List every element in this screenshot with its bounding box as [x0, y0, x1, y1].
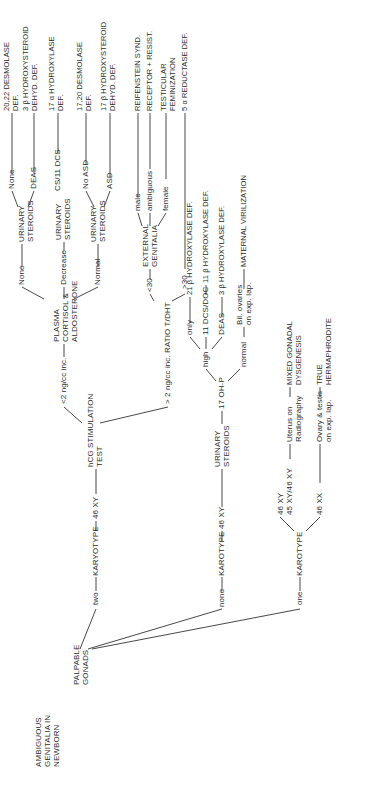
- node-uterus-on-radiography: Uterus on Radiography: [285, 396, 303, 442]
- result-17b-hydroxysteroid-dehyd-def: 17 β HYDROXYSTEROID DEHYD. DEF.: [100, 22, 117, 111]
- label-deas-2: DEAS: [217, 313, 226, 335]
- node-external-genitalia: EXTERNAL GENITALIA: [141, 224, 159, 267]
- label-male: male: [133, 193, 142, 211]
- node-urinary-steroids-2: URINARY STEROIDS: [54, 198, 72, 240]
- result-5a-reductase-def: 5 α REDUCTASE DEF.: [181, 32, 190, 111]
- label-lt2-ng-cc: <2 ng/cc inc.: [59, 358, 68, 404]
- result-17-20-desmolase-def: 17,20 DESMOLASE DEF.: [76, 42, 93, 111]
- result-maternal-virilization: MATERNAL VIRILIZATION: [240, 175, 249, 267]
- root-node-ambiguous-genitalia: AMBIGUOUS GENITALIA IN NEWBORN: [34, 715, 61, 767]
- node-karotype-one: KAROTYPE: [295, 532, 304, 576]
- node-palpable-gonads: PALPABLE GONADS: [72, 644, 90, 685]
- label-normal-cortisol: Normal: [93, 259, 102, 285]
- result-mixed-gonadal-dysgenesis: MIXED GONADAL DYSGENESIS: [286, 321, 303, 385]
- label-no-asd: No ASD: [81, 160, 90, 189]
- label-only: only: [185, 320, 194, 335]
- label-one: one: [295, 591, 304, 605]
- node-urinary-steroids-1: URINARY STEROIDS: [17, 200, 35, 242]
- node-karotype-none: KAROTYPE: [217, 532, 226, 576]
- result-testicular-feminization: TESTICULAR FEMINIZATION: [160, 57, 177, 111]
- result-11b-hydroxylase-def: 11 β HYDROXYLASE DEF.: [202, 190, 211, 283]
- label-normal-ohp: normal: [239, 342, 248, 367]
- label-46xy-none: 46 XY: [217, 507, 226, 529]
- node-karyotype-two: KARYOTYPE: [91, 526, 100, 576]
- label-none: none: [217, 589, 226, 607]
- result-reifenstein-synd: REIFENSTEIN SYND.: [134, 35, 143, 111]
- label-none-cortisol: None: [17, 265, 26, 285]
- label-high: high: [201, 351, 210, 367]
- label-46xy-45xy: 46 XY 45 XY/46 XY: [276, 468, 294, 515]
- label-gt2-ng-cc-ratio-t-dht: > 2 ng/cc inc. RATIO T/DHT: [163, 302, 172, 404]
- result-20-22-desmolase-def: 20,22 DESMOLASE DEF.: [3, 42, 20, 111]
- node-ovary-testis: Ovary & testis on exp. lap.: [315, 391, 333, 442]
- result-receptor-resist: RECEPTOR + RESIST.: [146, 31, 155, 111]
- decision-tree: AMBIGUOUS GENITALIA IN NEWBORN PALPABLE …: [0, 0, 388, 789]
- result-3b-hydroxylase-def: 3 β HYDROXYLASE DEF.: [218, 206, 227, 295]
- node-urinary-steroids-3: URINARY STEROIDS: [89, 200, 107, 242]
- label-decrease: Decrease: [59, 250, 68, 285]
- result-21b-hydroxylase-def: 21 β HYDROXYLASE DEF.: [186, 201, 195, 295]
- label-asd: ASD: [105, 172, 114, 189]
- label-46xx: 46 XX: [315, 493, 324, 515]
- result-true-hermaphrodite: TRUE HERMAPHRODITE: [316, 318, 333, 385]
- diagram-frame: AMBIGUOUS GENITALIA IN NEWBORN PALPABLE …: [0, 0, 388, 789]
- label-46xy-two: 46 XY: [91, 497, 100, 519]
- label-cs-11dcs: CS/11 DCS: [53, 149, 62, 191]
- label-ambiguous: ambiguous: [145, 171, 154, 211]
- node-plasma-cortisol-aldosterone: PLASMA CORTISOL & ALDOSTERONE: [52, 280, 79, 342]
- node-17-oh-p: 17 OH-P: [217, 377, 226, 409]
- node-bil-ovaries: Bil. ovaries on exp. lap.: [235, 282, 253, 325]
- label-none-steroids: None: [7, 169, 16, 189]
- label-female: female: [161, 186, 170, 211]
- node-urinary-steroids-none: URINARY STEROIDS: [213, 425, 231, 467]
- label-11-dcs-doc: 11 DCS/DOC: [201, 287, 210, 335]
- result-17a-hydroxylase-def: 17 α HYDROXYLASE DEF.: [48, 36, 65, 111]
- node-hcg-stimulation-test: hCG STIMULATION TEST: [86, 394, 104, 467]
- result-3b-hydroxysteroid-dehyd-def: 3 β HYDROXYSTEROID DEHYD. DEF.: [22, 26, 39, 111]
- label-deas-1: DEAS: [29, 167, 38, 189]
- label-two: two: [91, 592, 100, 605]
- label-lt30: <30: [145, 278, 154, 292]
